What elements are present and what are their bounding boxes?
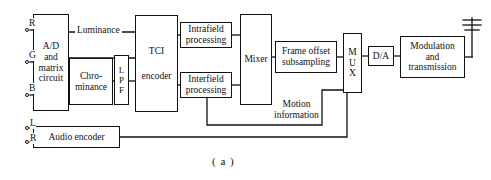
block-ad-matrix-circuit[interactable]: A/D and matrix circuit <box>33 14 69 111</box>
block-line: F <box>119 85 124 95</box>
block-digital-to-analog[interactable]: D/A <box>368 46 394 66</box>
block-line: U <box>349 58 356 69</box>
block-tci-encoder[interactable]: TCI encoder <box>135 15 178 112</box>
block-line: Mixer <box>244 54 267 65</box>
label-luminance: Luminance <box>75 25 122 36</box>
block-line: Intrafield <box>188 24 223 35</box>
block-line: Modulation <box>410 41 454 52</box>
block-interfield-processing[interactable]: Interfield processing <box>180 72 232 98</box>
block-audio-encoder[interactable]: Audio encoder <box>33 126 120 148</box>
block-line: minance <box>75 82 107 93</box>
terminal-label-l-audio: L <box>30 118 36 129</box>
block-line: D/A <box>373 51 389 62</box>
block-line: M <box>348 47 356 58</box>
block-modulation-and-transmission[interactable]: Modulation and transmission <box>400 36 465 78</box>
terminal-r-audio[interactable] <box>25 140 29 144</box>
terminal-l-audio[interactable] <box>25 126 29 130</box>
block-line: L <box>119 65 125 75</box>
block-line: processing <box>186 85 227 96</box>
terminal-label-r-video: R <box>29 18 35 29</box>
block-line: P <box>119 75 124 85</box>
label-motion-information-line1: Motion <box>274 99 319 110</box>
block-line: TCI <box>149 46 164 57</box>
block-line: Chro- <box>80 71 102 82</box>
terminal-label-b-video: B <box>29 83 35 94</box>
block-line: A/D <box>43 41 59 52</box>
terminal-label-r-audio: R <box>30 133 36 144</box>
terminal-label-g-video: G <box>29 50 36 61</box>
block-line: circuit <box>39 73 63 84</box>
block-line: processing <box>186 35 227 46</box>
block-line: X <box>349 68 356 79</box>
block-mux[interactable]: M U X <box>343 33 362 93</box>
label-motion-information: Motion information <box>272 99 321 120</box>
block-line: matrix <box>39 63 64 74</box>
block-chrominance[interactable]: Chro- minance <box>69 58 113 105</box>
block-line: transmission <box>408 62 456 73</box>
block-mixer[interactable]: Mixer <box>240 14 272 105</box>
block-line: Audio encoder <box>48 132 104 143</box>
block-line: Interfield <box>188 74 223 85</box>
label-motion-information-line2: information <box>274 110 319 121</box>
block-diagram-figure: R G B L R A/D and matrix circuit Chro- m… <box>0 0 491 180</box>
block-line: Frame offset <box>282 46 330 57</box>
block-intrafield-processing[interactable]: Intrafield processing <box>180 22 232 48</box>
block-frame-offset-subsampling[interactable]: Frame offset subsampling <box>275 41 337 73</box>
block-line: subsampling <box>282 57 330 68</box>
block-line: encoder <box>141 71 171 82</box>
block-line: and <box>44 52 58 63</box>
figure-caption: ( a ) <box>212 155 235 167</box>
block-line: and <box>426 52 440 63</box>
block-low-pass-filter[interactable]: L P F <box>114 55 129 105</box>
